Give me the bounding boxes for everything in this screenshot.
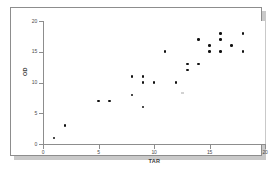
- x-tick-label: 0: [34, 150, 52, 155]
- y-tick: [39, 52, 43, 53]
- data-point: [208, 50, 211, 53]
- y-tick: [39, 21, 43, 22]
- y-tick-label: 5: [19, 111, 37, 116]
- x-axis-title: TAR: [43, 158, 266, 164]
- scatter-plot-figure: 05101520 05101520 TAR OD: [0, 0, 273, 170]
- data-point: [97, 100, 100, 103]
- y-axis-line: [43, 21, 44, 145]
- data-point: [142, 81, 145, 84]
- data-point: [131, 75, 134, 78]
- y-axis-title: OD: [22, 67, 28, 76]
- y-tick-label: 15: [19, 49, 37, 54]
- data-point: [142, 75, 145, 78]
- y-tick-label: 0: [19, 142, 37, 147]
- y-tick: [39, 83, 43, 84]
- y-tick-label: 10: [19, 80, 37, 85]
- y-tick-label-text: 15: [21, 49, 37, 54]
- data-point: [153, 81, 156, 84]
- x-tick-label: 15: [201, 150, 219, 155]
- y-tick-label-text: 5: [21, 111, 37, 116]
- y-tick-label-text: 10: [21, 80, 37, 85]
- y-tick-label-text: 0: [21, 142, 37, 147]
- y-tick-label: 20: [19, 19, 37, 24]
- x-tick-label: 10: [145, 150, 163, 155]
- data-point: [197, 38, 200, 41]
- data-point: [186, 63, 189, 66]
- x-tick-label: 5: [90, 150, 108, 155]
- y-tick-label-text: 20: [21, 19, 37, 24]
- data-point: [108, 100, 111, 103]
- data-point: [219, 32, 222, 35]
- data-point: [242, 50, 245, 53]
- data-point: [219, 50, 222, 53]
- data-point: [219, 38, 222, 41]
- data-point: [242, 32, 245, 35]
- y-tick: [39, 113, 43, 114]
- raster-speck: [181, 92, 184, 94]
- data-point: [131, 94, 134, 97]
- data-point: [230, 44, 233, 47]
- x-tick-label: 20: [256, 150, 273, 155]
- data-point: [208, 44, 211, 47]
- figure-frame: 05101520 05101520 TAR OD: [10, 7, 262, 156]
